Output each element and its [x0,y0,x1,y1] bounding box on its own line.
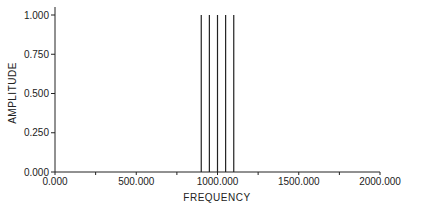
y-axis: 0.0000.2500.5000.7501.000 [24,7,55,178]
x-tick-label: 0.000 [42,176,67,187]
y-tick-label: 0.750 [24,49,49,60]
frequency-amplitude-chart: 0.0000.2500.5000.7501.000 0.000500.00010… [0,0,421,210]
x-axis-title: FREQUENCY [183,192,250,203]
y-tick-label: 1.000 [24,10,49,21]
spectral-lines [201,15,234,172]
y-tick-label: 0.500 [24,88,49,99]
y-tick-label: 0.250 [24,127,49,138]
x-axis: 0.000500.0001000.0001500.0002000.000 [42,172,401,187]
x-tick-label: 500.000 [118,176,155,187]
x-tick-label: 2000.000 [359,176,401,187]
x-tick-label: 1000.000 [197,176,239,187]
y-axis-title: AMPLITUDE [7,62,18,124]
x-tick-label: 1500.000 [278,176,320,187]
